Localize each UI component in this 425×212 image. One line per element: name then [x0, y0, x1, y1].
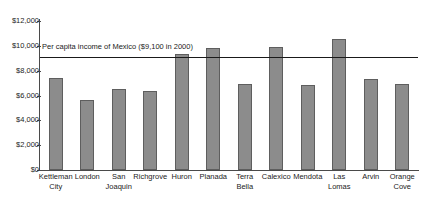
bar: [49, 78, 63, 170]
x-axis-label-line: Bella: [223, 182, 267, 192]
x-axis-label-line: Orange: [381, 172, 425, 182]
x-axis-label: OrangeCove: [381, 172, 425, 191]
y-tick-label: $2,000: [0, 141, 39, 149]
x-axis-category-labels: KettlemanCityLondonSanJoaquinRichgroveHu…: [40, 172, 418, 210]
y-tick-label: $6,000: [0, 92, 39, 100]
reference-line-label: Per capita income of Mexico ($9,100 in 2…: [42, 42, 193, 51]
reference-line: [40, 57, 418, 58]
bar: [364, 79, 378, 170]
x-axis-label-line: City: [34, 182, 78, 192]
x-axis-label-line: Joaquin: [97, 182, 141, 192]
bar: [269, 47, 283, 170]
y-tick-label: $10,000: [0, 42, 39, 50]
bar: [301, 85, 315, 170]
x-axis-label-line: Cove: [381, 182, 425, 192]
plot-area: $0$2,000$4,000$6,000$8,000$10,000$12,000…: [40, 21, 418, 170]
bar: [112, 89, 126, 170]
bar: [332, 39, 346, 170]
y-tick-label: $8,000: [0, 67, 39, 75]
bar: [206, 48, 220, 170]
bar: [143, 91, 157, 170]
y-tick-label: $4,000: [0, 116, 39, 124]
bar: [80, 100, 94, 170]
bar: [175, 54, 189, 170]
y-tick-label: $12,000: [0, 17, 39, 25]
x-axis-line: [39, 170, 419, 171]
bar: [238, 84, 252, 170]
x-axis-label-line: Lomas: [318, 182, 362, 192]
bar-chart: $0$2,000$4,000$6,000$8,000$10,000$12,000…: [0, 0, 425, 212]
bar: [395, 84, 409, 170]
